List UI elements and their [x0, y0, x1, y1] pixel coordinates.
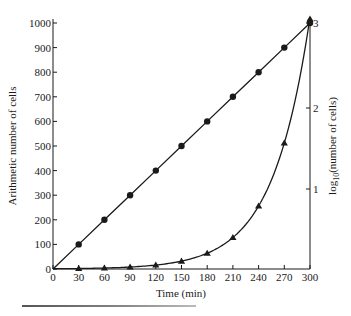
- y-tick-right-label: 3: [313, 17, 319, 29]
- y-tick-left-label: 400: [35, 165, 52, 177]
- x-tick-label: 150: [173, 271, 190, 283]
- divider-rule: [22, 305, 196, 307]
- y-axis-right-title-log: log: [326, 180, 338, 195]
- x-tick-label: 180: [199, 271, 216, 283]
- x-tick-label: 210: [225, 271, 242, 283]
- x-axis-title: Time (min): [156, 287, 206, 300]
- x-tick-label: 0: [50, 271, 56, 283]
- y-tick-left-label: 800: [35, 66, 52, 78]
- circle-marker: [230, 94, 236, 100]
- x-tick-label: 120: [148, 271, 165, 283]
- triangle-marker: [255, 202, 262, 208]
- x-tick-label: 270: [276, 271, 293, 283]
- y-axis-right-title-rest: (number of cells): [326, 97, 339, 173]
- x-tick-label: 60: [99, 271, 111, 283]
- y-axis-right-title: log10(number of cells): [326, 97, 341, 195]
- series: [53, 15, 314, 271]
- y-tick-left-label: 900: [35, 42, 52, 54]
- y-tick-right-label: 2: [313, 102, 319, 114]
- y-axis-right-title-subscript: 10: [332, 173, 341, 181]
- y-tick-left-label: 500: [35, 140, 52, 152]
- x-tick-label: 300: [302, 271, 319, 283]
- x-tick-label: 30: [73, 271, 85, 283]
- circle-marker: [101, 217, 107, 223]
- y-tick-left-label: 600: [35, 115, 52, 127]
- y-tick-right-label: 1: [313, 183, 319, 195]
- circle-marker: [127, 192, 133, 198]
- y-tick-left-label: 700: [35, 91, 52, 103]
- y-tick-left-label: 1000: [29, 17, 52, 29]
- triangle-marker: [281, 139, 288, 145]
- y-tick-left-label: 100: [35, 238, 52, 250]
- circle-marker: [178, 143, 184, 149]
- y-tick-left-label: 0: [46, 263, 52, 275]
- y-tick-left-label: 300: [35, 189, 52, 201]
- circle-marker: [281, 44, 287, 50]
- growth-chart: 0306090120150180210240270300010020030040…: [0, 0, 351, 316]
- circle-marker: [255, 69, 261, 75]
- circle-marker: [76, 241, 82, 247]
- circle-marker: [204, 118, 210, 124]
- circle-marker: [153, 167, 159, 173]
- y-tick-left-label: 200: [35, 214, 52, 226]
- x-tick-label: 90: [125, 271, 137, 283]
- x-tick-label: 240: [250, 271, 267, 283]
- y-axis-left-title: Arithmetic number of cells: [6, 87, 18, 206]
